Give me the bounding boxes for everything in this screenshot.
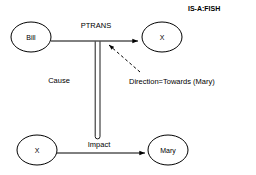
node-x-bottom-label: X (35, 147, 40, 154)
direction-annotation-label: Direction=Towards (Mary) (129, 77, 215, 86)
node-x-bottom[interactable]: X (17, 135, 57, 165)
ptrans-edge-label: PTRANS (81, 21, 111, 30)
node-x-top[interactable]: X (142, 22, 182, 52)
node-mary-label: Mary (160, 147, 176, 155)
node-bill[interactable]: Bill (11, 22, 51, 52)
node-mary[interactable]: Mary (148, 135, 188, 165)
cause-edge-label: Cause (48, 76, 70, 85)
impact-edge-label: Impact (88, 140, 111, 149)
edge-impact: Impact (57, 140, 145, 153)
conceptual-dependency-diagram: IS-A:FISH PTRANS Impact Cause Direction=… (0, 0, 256, 175)
edge-cause: Cause (48, 42, 100, 139)
diagram-canvas: IS-A:FISH PTRANS Impact Cause Direction=… (0, 0, 256, 175)
direction-dashed-pointer (109, 45, 140, 72)
corner-annotation-label: IS-A:FISH (188, 5, 220, 12)
edge-ptrans: PTRANS (51, 21, 138, 41)
node-x-top-label: X (160, 34, 165, 41)
cause-double-line (95, 42, 100, 139)
annotation-direction: Direction=Towards (Mary) (109, 45, 215, 86)
node-bill-label: Bill (26, 34, 36, 41)
